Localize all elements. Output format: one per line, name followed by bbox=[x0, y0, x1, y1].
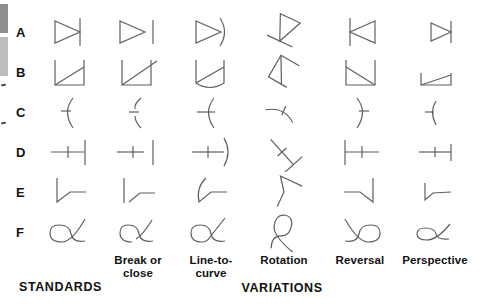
form-d-reversal bbox=[322, 132, 398, 172]
page-edge-mark bbox=[1, 122, 6, 125]
form-b-rotation bbox=[246, 52, 322, 92]
form-b-reversal bbox=[322, 52, 398, 92]
form-d-break-or-close bbox=[100, 132, 176, 172]
variations-section-label: VARIATIONS bbox=[212, 281, 352, 295]
form-b-perspective bbox=[398, 52, 472, 92]
form-d-standard bbox=[40, 132, 100, 172]
page-edge-mark bbox=[1, 84, 6, 87]
form-f-perspective bbox=[398, 212, 472, 252]
form-a-perspective bbox=[398, 12, 472, 52]
form-f-standard bbox=[40, 212, 100, 252]
column-label-perspective: Perspective bbox=[398, 252, 472, 292]
page-edge-bar-light bbox=[0, 37, 8, 76]
row-label-a: A bbox=[16, 12, 40, 52]
form-a-rotation bbox=[246, 12, 322, 52]
form-e-rotation bbox=[246, 172, 322, 212]
form-f-break-or-close bbox=[100, 212, 176, 252]
form-d-rotation bbox=[246, 132, 322, 172]
row-label-e: E bbox=[16, 172, 40, 212]
form-c-line-to-curve bbox=[176, 92, 246, 132]
page-edge-bar-dark bbox=[0, 4, 8, 33]
form-b-break-or-close bbox=[100, 52, 176, 92]
form-e-line-to-curve bbox=[176, 172, 246, 212]
form-c-standard bbox=[40, 92, 100, 132]
form-e-break-or-close bbox=[100, 172, 176, 212]
form-a-reversal bbox=[322, 12, 398, 52]
form-b-standard bbox=[40, 52, 100, 92]
column-label-break-or-close: Break or close bbox=[100, 252, 176, 292]
standards-section-label: STANDARDS bbox=[19, 280, 102, 294]
form-c-reversal bbox=[322, 92, 398, 132]
form-f-line-to-curve bbox=[176, 212, 246, 252]
form-a-line-to-curve bbox=[176, 12, 246, 52]
form-e-standard bbox=[40, 172, 100, 212]
form-d-line-to-curve bbox=[176, 132, 246, 172]
form-b-line-to-curve bbox=[176, 52, 246, 92]
row-label-f: F bbox=[16, 212, 40, 252]
form-e-reversal bbox=[322, 172, 398, 212]
form-a-break-or-close bbox=[100, 12, 176, 52]
form-a-standard bbox=[40, 12, 100, 52]
form-c-break-or-close bbox=[100, 92, 176, 132]
form-d-perspective bbox=[398, 132, 472, 172]
form-c-rotation bbox=[246, 92, 322, 132]
row-label-d: D bbox=[16, 132, 40, 172]
form-c-perspective bbox=[398, 92, 472, 132]
gibson-letterlike-forms-figure: A bbox=[0, 0, 483, 308]
forms-grid: A bbox=[16, 12, 472, 292]
form-f-reversal bbox=[322, 212, 398, 252]
row-label-c: C bbox=[16, 92, 40, 132]
form-f-rotation bbox=[246, 212, 322, 252]
row-label-b: B bbox=[16, 52, 40, 92]
form-e-perspective bbox=[398, 172, 472, 212]
